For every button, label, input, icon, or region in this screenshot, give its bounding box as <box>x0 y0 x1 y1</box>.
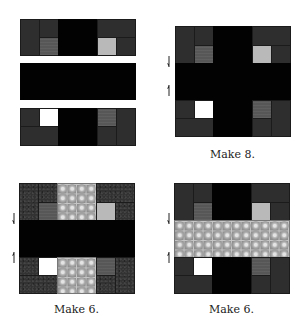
dark-rectangle-patch <box>271 100 291 137</box>
medium-gray-square-patch <box>252 100 272 119</box>
assembly-rows-panel <box>20 19 136 146</box>
white-square-patch <box>193 257 213 276</box>
dark-square-patch <box>175 100 195 119</box>
light-gray-square-patch <box>96 202 116 221</box>
caption-block-c: Make 6. <box>174 303 289 316</box>
block-a <box>175 26 291 137</box>
dark-square-patch <box>116 37 136 56</box>
black-center-patch <box>58 19 98 56</box>
dark-rectangle-patch <box>19 275 58 294</box>
dark-rectangle-patch <box>20 126 59 146</box>
bottom-row-strip <box>20 108 136 146</box>
press-up-arrow-icon <box>165 251 173 263</box>
light-gray-square-patch <box>252 45 272 64</box>
medium-gray-square-patch <box>193 202 213 221</box>
press-down-arrow-icon <box>10 213 18 225</box>
dark-rectangle-patch <box>270 257 290 294</box>
dark-rectangle-patch <box>96 183 135 203</box>
medium-gray-square-patch <box>38 202 58 221</box>
dark-rectangle-patch <box>174 275 213 294</box>
medium-gray-square-patch <box>251 257 271 276</box>
dark-rectangle-patch <box>20 19 40 56</box>
dark-square-patch <box>39 19 59 38</box>
dark-square-patch <box>193 183 213 203</box>
dark-rectangle-patch <box>19 183 39 221</box>
white-square-patch <box>39 108 59 127</box>
medium-gray-square-patch <box>194 45 214 64</box>
dark-rectangle-patch <box>251 183 290 203</box>
medium-gray-square-patch <box>39 37 59 56</box>
white-square-patch <box>194 100 214 119</box>
block-b <box>19 183 135 294</box>
press-up-arrow-icon <box>165 84 173 96</box>
caption-block-b: Make 6. <box>19 303 134 316</box>
dark-square-patch <box>251 275 271 294</box>
check-print-center-patch <box>57 183 97 221</box>
dark-rectangle-patch <box>116 108 136 146</box>
dark-rectangle-patch <box>175 118 214 137</box>
dark-rectangle-patch <box>174 183 194 221</box>
dark-square-patch <box>115 202 135 221</box>
dark-square-patch <box>174 257 194 276</box>
caption-block-a: Make 8. <box>175 148 290 161</box>
dark-square-patch <box>20 108 40 127</box>
dark-square-patch <box>19 257 39 276</box>
dark-square-patch <box>194 26 214 46</box>
black-center-patch <box>213 26 253 64</box>
middle-black-band <box>19 220 135 258</box>
middle-check-print-band <box>174 220 290 258</box>
dark-square-patch <box>271 45 291 64</box>
black-center-patch <box>58 108 98 146</box>
dark-square-patch <box>96 275 116 294</box>
middle-black-band <box>20 63 136 100</box>
dark-rectangle-patch <box>175 26 195 64</box>
dark-rectangle-patch <box>115 257 135 294</box>
dark-square-patch <box>97 126 117 146</box>
dark-rectangle-patch <box>97 19 136 38</box>
dark-square-patch <box>38 183 58 203</box>
dark-square-patch <box>270 202 290 221</box>
black-center-patch <box>212 183 252 221</box>
middle-black-band <box>175 63 291 101</box>
block-c <box>174 183 290 294</box>
light-gray-square-patch <box>97 37 117 56</box>
press-down-arrow-icon <box>165 213 173 225</box>
check-print-center-patch <box>57 257 97 294</box>
press-down-arrow-icon <box>165 56 173 68</box>
dark-square-patch <box>252 118 272 137</box>
press-up-arrow-icon <box>10 251 18 263</box>
white-square-patch <box>38 257 58 276</box>
medium-gray-square-patch <box>96 257 116 276</box>
dark-rectangle-patch <box>252 26 291 46</box>
light-gray-square-patch <box>251 202 271 221</box>
medium-gray-square-patch <box>97 108 117 127</box>
black-center-patch <box>212 257 252 294</box>
black-center-patch <box>213 100 253 137</box>
top-row-strip <box>20 19 136 56</box>
